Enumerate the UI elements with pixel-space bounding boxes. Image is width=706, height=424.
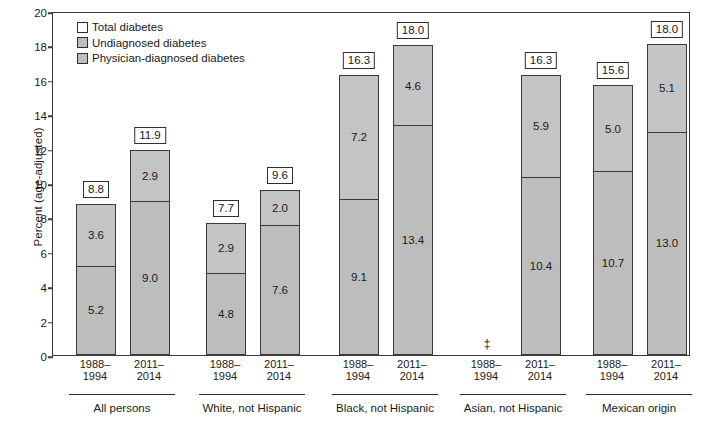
bar-mexican-origin-2011-2014: 13.05.118.0 xyxy=(647,11,687,355)
group-label: All persons xyxy=(49,402,195,414)
x-tick-label-line2: 2014 xyxy=(384,371,440,383)
x-tick-label-line1: 1988– xyxy=(197,359,253,371)
total-value-box: 11.9 xyxy=(134,127,166,144)
x-tick-label: 2011–2014 xyxy=(384,359,440,382)
total-value-box: 18.0 xyxy=(651,21,683,38)
x-tick-label-line2: 2014 xyxy=(251,371,307,383)
x-tick-label-line2: 1994 xyxy=(458,371,514,383)
group-label: Asian, not Hispanic xyxy=(440,402,586,414)
bar-segment-value-diagnosed: 13.0 xyxy=(656,237,678,249)
x-tick-label: 1988–1994 xyxy=(458,359,514,382)
x-tick-label: 2011–2014 xyxy=(638,359,694,382)
y-tick-mark xyxy=(48,219,53,221)
group-label: Mexican origin xyxy=(566,402,706,414)
bar-segment-physician-diagnosed: 7.6 xyxy=(260,224,300,355)
x-tick-label: 1988–1994 xyxy=(67,359,123,382)
bar-segment-value-undiagnosed: 2.9 xyxy=(218,242,234,254)
total-value-box: 7.7 xyxy=(213,200,239,217)
bar-segment-value-diagnosed: 9.1 xyxy=(351,271,367,283)
bar-segment-physician-diagnosed: 10.4 xyxy=(521,176,561,355)
bar-white-not-hispanic-1988-1994: 4.82.97.7 xyxy=(206,11,246,355)
bar-segment-value-diagnosed: 13.4 xyxy=(402,234,424,246)
bar-segment-value-diagnosed: 4.8 xyxy=(218,308,234,320)
bar-segment-physician-diagnosed: 9.1 xyxy=(339,198,379,355)
x-tick-label-line2: 2014 xyxy=(512,371,568,383)
x-tick-label-line1: 1988– xyxy=(67,359,123,371)
x-tick-label-line1: 2011– xyxy=(638,359,694,371)
bar-segment-undiagnosed: 5.1 xyxy=(647,44,687,133)
bar-asian-not-hispanic-1988-1994: ‡ xyxy=(467,11,507,355)
stacked-bar-chart: Percent (age-adjusted) Total diabetes Un… xyxy=(0,0,706,424)
y-tick-mark xyxy=(48,356,53,358)
bar-segment-physician-diagnosed: 5.2 xyxy=(76,266,116,355)
x-tick-label-line1: 2011– xyxy=(512,359,568,371)
bar-segment-undiagnosed: 2.9 xyxy=(130,150,170,201)
bar-segment-value-undiagnosed: 5.9 xyxy=(533,120,549,132)
bar-segment-value-diagnosed: 9.0 xyxy=(142,272,158,284)
bar-segment-value-diagnosed: 10.4 xyxy=(530,260,552,272)
group-label: White, not Hispanic xyxy=(179,402,325,414)
bar-asian-not-hispanic-2011-2014: 10.45.916.3 xyxy=(521,11,561,355)
y-tick-mark xyxy=(48,253,53,255)
x-tick-label-line2: 2014 xyxy=(638,371,694,383)
y-tick-mark xyxy=(48,322,53,324)
suppressed-data-marker: ‡ xyxy=(484,337,491,351)
x-tick-label-line1: 2011– xyxy=(384,359,440,371)
bar-segment-value-undiagnosed: 7.2 xyxy=(351,131,367,143)
bar-segment-value-undiagnosed: 2.0 xyxy=(272,202,288,214)
bar-segment-value-undiagnosed: 4.6 xyxy=(405,80,421,92)
bar-segment-undiagnosed: 5.0 xyxy=(593,85,633,173)
bar-mexican-origin-1988-1994: 10.75.015.6 xyxy=(593,11,633,355)
bar-segment-value-diagnosed: 10.7 xyxy=(602,257,624,269)
y-tick-mark xyxy=(48,115,53,117)
x-tick-label-line1: 1988– xyxy=(584,359,640,371)
bar-segment-undiagnosed: 5.9 xyxy=(521,75,561,178)
bar-segment-undiagnosed: 7.2 xyxy=(339,75,379,200)
total-value-box: 15.6 xyxy=(597,62,629,79)
x-tick-label-line2: 1994 xyxy=(67,371,123,383)
bar-segment-undiagnosed: 2.0 xyxy=(260,190,300,226)
x-tick-label-line1: 2011– xyxy=(251,359,307,371)
bar-segment-value-undiagnosed: 2.9 xyxy=(142,170,158,182)
x-tick-label-line2: 1994 xyxy=(584,371,640,383)
bar-segment-value-diagnosed: 5.2 xyxy=(88,304,104,316)
x-tick-label: 2011–2014 xyxy=(251,359,307,382)
bar-black-not-hispanic-2011-2014: 13.44.618.0 xyxy=(393,11,433,355)
group-underline xyxy=(69,394,175,395)
bar-all-persons-2011-2014: 9.02.911.9 xyxy=(130,11,170,355)
x-tick-label-line1: 2011– xyxy=(121,359,177,371)
bar-segment-undiagnosed: 4.6 xyxy=(393,45,433,126)
x-tick-label-line2: 1994 xyxy=(330,371,386,383)
y-tick-mark xyxy=(48,287,53,289)
total-value-box: 8.8 xyxy=(83,181,109,198)
total-value-box: 16.3 xyxy=(343,52,375,69)
group-underline xyxy=(199,394,305,395)
bar-segment-value-undiagnosed: 5.1 xyxy=(659,82,675,94)
total-value-box: 9.6 xyxy=(267,167,293,184)
x-tick-label-line1: 1988– xyxy=(330,359,386,371)
x-tick-label: 1988–1994 xyxy=(584,359,640,382)
bar-segment-physician-diagnosed: 13.4 xyxy=(393,125,433,355)
x-tick-label: 1988–1994 xyxy=(330,359,386,382)
y-tick-mark xyxy=(48,81,53,83)
bar-all-persons-1988-1994: 5.23.68.8 xyxy=(76,11,116,355)
bar-segment-undiagnosed: 2.9 xyxy=(206,223,246,274)
x-tick-label-line2: 1994 xyxy=(197,371,253,383)
bar-segment-physician-diagnosed: 10.7 xyxy=(593,171,633,355)
bar-segment-physician-diagnosed: 13.0 xyxy=(647,131,687,355)
x-tick-label: 2011–2014 xyxy=(512,359,568,382)
x-tick-label-line2: 2014 xyxy=(121,371,177,383)
bar-segment-value-undiagnosed: 3.6 xyxy=(88,229,104,241)
bar-segment-physician-diagnosed: 9.0 xyxy=(130,200,170,355)
bar-segment-value-diagnosed: 7.6 xyxy=(272,284,288,296)
total-value-box: 18.0 xyxy=(397,22,429,39)
bar-black-not-hispanic-1988-1994: 9.17.216.3 xyxy=(339,11,379,355)
bar-white-not-hispanic-2011-2014: 7.62.09.6 xyxy=(260,11,300,355)
plot-area: Total diabetes Undiagnosed diabetes Phys… xyxy=(52,12,690,356)
bar-segment-undiagnosed: 3.6 xyxy=(76,204,116,267)
y-tick-mark xyxy=(48,12,53,14)
y-tick-mark xyxy=(48,150,53,152)
x-tick-label: 1988–1994 xyxy=(197,359,253,382)
group-underline xyxy=(586,394,692,395)
group-underline xyxy=(460,394,566,395)
